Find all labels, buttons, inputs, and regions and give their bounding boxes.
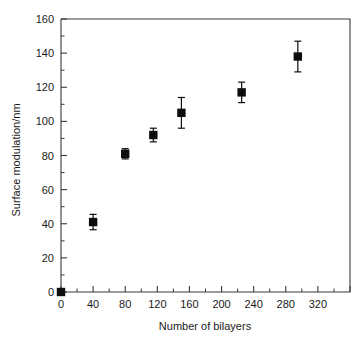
data-point xyxy=(89,214,97,229)
chart-figure: 04080120160200240280320 0204060801001201… xyxy=(0,0,363,340)
y-tick-label: 0 xyxy=(48,286,54,298)
y-tick-label: 120 xyxy=(36,81,54,93)
data-point xyxy=(237,82,245,102)
data-point xyxy=(57,288,65,296)
data-point-marker xyxy=(177,109,185,117)
x-tick-label: 40 xyxy=(87,298,99,310)
x-tick-label: 0 xyxy=(58,298,64,310)
y-axis-tick-labels: 020406080100120140160 xyxy=(36,13,54,298)
data-point-marker xyxy=(57,288,65,296)
x-axis-title: Number of bilayers xyxy=(159,320,252,332)
x-tick-label: 280 xyxy=(277,298,295,310)
y-tick-label: 60 xyxy=(42,184,54,196)
y-axis-title: Surface modulation/nm xyxy=(10,103,22,216)
y-tick-label: 80 xyxy=(42,150,54,162)
data-point-marker xyxy=(149,131,157,139)
y-tick-label: 20 xyxy=(42,252,54,264)
data-point xyxy=(149,128,157,142)
plot-frame xyxy=(61,19,350,292)
data-point-marker xyxy=(237,88,245,96)
data-point-marker xyxy=(121,150,129,158)
x-tick-label: 200 xyxy=(212,298,230,310)
y-tick-label: 140 xyxy=(36,47,54,59)
scatter-plot-canvas: 04080120160200240280320 0204060801001201… xyxy=(0,0,363,340)
x-axis-tick-labels: 04080120160200240280320 xyxy=(58,298,327,310)
x-tick-label: 120 xyxy=(148,298,166,310)
x-axis-ticks xyxy=(61,286,350,292)
data-point xyxy=(177,97,185,128)
x-tick-label: 80 xyxy=(119,298,131,310)
data-series xyxy=(57,41,302,296)
y-tick-label: 160 xyxy=(36,13,54,25)
data-point-marker xyxy=(294,52,302,60)
data-point xyxy=(294,41,302,72)
data-point-marker xyxy=(89,218,97,226)
y-axis-ticks xyxy=(61,19,67,292)
data-series-layer xyxy=(57,41,302,296)
x-tick-label: 320 xyxy=(309,298,327,310)
data-point xyxy=(121,149,129,159)
y-tick-label: 100 xyxy=(36,115,54,127)
y-tick-label: 40 xyxy=(42,218,54,230)
x-tick-label: 240 xyxy=(244,298,262,310)
x-tick-label: 160 xyxy=(180,298,198,310)
